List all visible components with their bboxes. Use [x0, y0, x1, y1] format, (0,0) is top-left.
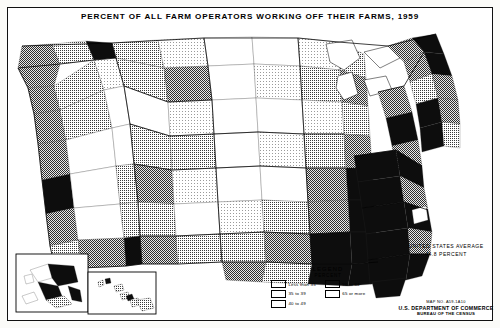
- legend-subtitle: PERCENT: [258, 273, 398, 278]
- legend-title: LEGEND: [258, 266, 398, 272]
- us-average-callout: UNITED STATES AVERAGE 44.8 PERCENT: [398, 243, 494, 259]
- legend-item-less-than-35: Less than 35: [271, 280, 316, 288]
- map-svg: [8, 24, 492, 320]
- legend-swatch-dense-checker: [325, 280, 340, 288]
- legend-swatch-solid-black: [325, 290, 340, 298]
- us-average-line2: 44.8 PERCENT: [398, 251, 494, 259]
- legend-swatch-checker: [271, 300, 286, 308]
- legend-item-50-to-64: 50 to 64: [325, 280, 366, 288]
- legend-label: 40 to 49: [289, 301, 306, 306]
- department-name: U.S. DEPARTMENT OF COMMERCE: [396, 305, 496, 311]
- legend-swatch-white: [271, 280, 286, 288]
- inset-alaska: [16, 254, 88, 312]
- legend-label: 35 to 39: [289, 291, 306, 296]
- inset-hawaii: [88, 272, 156, 314]
- legend-item-35-to-39: 35 to 39: [271, 290, 316, 298]
- legend-label: 50 to 64: [342, 282, 359, 287]
- census-map-figure: PERCENT OF ALL FARM OPERATORS WORKING OF…: [0, 0, 500, 328]
- legend-column-right: 50 to 64 65 or more: [325, 280, 366, 308]
- legend-label: 65 or more: [342, 291, 365, 296]
- legend-item-65-or-more: 65 or more: [325, 290, 366, 298]
- map-plate: [8, 24, 492, 320]
- legend-label: Less than 35: [289, 282, 316, 287]
- us-average-line1: UNITED STATES AVERAGE: [398, 243, 494, 251]
- legend-swatch-light-stipple: [271, 290, 286, 298]
- page-title: PERCENT OF ALL FARM OPERATORS WORKING OF…: [0, 12, 500, 21]
- bureau-name: BUREAU OF THE CENSUS: [396, 311, 496, 316]
- map-number: MAP NO. A59-1A10: [396, 299, 496, 304]
- legend-column-left: Less than 35 35 to 39 40 to 49: [271, 280, 316, 308]
- legend: LEGEND PERCENT Less than 35 35 to 39 40 …: [258, 266, 398, 308]
- legend-item-40-to-49: 40 to 49: [271, 300, 316, 308]
- credit-block: MAP NO. A59-1A10 U.S. DEPARTMENT OF COMM…: [396, 299, 496, 316]
